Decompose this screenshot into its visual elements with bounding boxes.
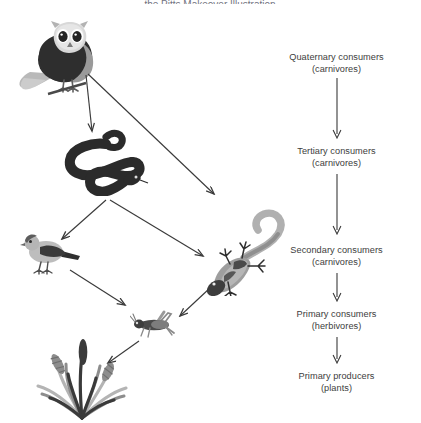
level-quaternary: Quaternary consumers (carnivores) [252,52,421,75]
level-primary-consumers-title: Primary consumers [297,309,377,319]
level-secondary-sub: (carnivores) [252,257,421,269]
level-tertiary: Tertiary consumers (carnivores) [252,146,421,169]
level-primary-producers-sub: (plants) [252,383,421,395]
level-primary-producers: Primary producers (plants) [252,371,421,394]
trophic-level-column: Quaternary consumers (carnivores) Tertia… [252,0,421,423]
level-tertiary-title: Tertiary consumers [297,146,376,156]
level-secondary-title: Secondary consumers [290,245,382,255]
level-primary-consumers: Primary consumers (herbivores) [252,309,421,332]
level-quaternary-title: Quaternary consumers [289,52,383,62]
level-tertiary-sub: (carnivores) [252,158,421,170]
level-primary-producers-title: Primary producers [299,371,375,381]
food-web-arrows [0,0,260,423]
level-primary-consumers-sub: (herbivores) [252,321,421,333]
food-web-diagram: the Pitts Makeover Illustration [0,0,421,423]
level-arrow-tertiary-to-secondary [331,174,342,236]
level-arrow-secondary-to-primary-consumers [331,273,342,303]
level-secondary: Secondary consumers (carnivores) [252,245,421,268]
level-quaternary-sub: (carnivores) [252,64,421,76]
level-arrow-quaternary-to-tertiary [331,78,342,140]
level-arrow-primary-consumers-to-producers [331,337,342,365]
